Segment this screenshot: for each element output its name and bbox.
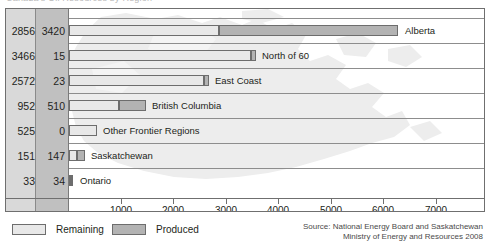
x-tick-7000	[436, 199, 437, 204]
row-divider	[69, 43, 484, 44]
bar-label-ontario: Ontario	[80, 175, 111, 186]
x-axis-line	[69, 198, 484, 199]
bar-segment-remaining	[69, 125, 97, 136]
source-note: Source: National Energy Board and Saskat…	[303, 222, 483, 242]
plot-area: Alberta North of 60 East Coast British C…	[69, 9, 484, 211]
bar-label-british-columbia: British Columbia	[152, 100, 221, 111]
x-tick-6000	[383, 199, 384, 204]
bar-segment-produced	[251, 50, 256, 61]
remaining-value-east-coast: 2572	[12, 74, 35, 88]
value-columns: 2856 3420 3466 15 2572 23 952 510 525 0 …	[6, 9, 69, 211]
x-tick-label-7000: 7000	[425, 205, 447, 212]
bar-segment-remaining	[69, 25, 219, 36]
x-tick-5000	[331, 199, 332, 204]
clipped-title-text: Canada's Oil Resources by Region	[6, 0, 152, 3]
bar-segment-remaining	[69, 75, 204, 86]
x-tick-label-5000: 5000	[320, 205, 342, 212]
bar-segment-produced	[204, 75, 209, 86]
x-tick-label-3000: 3000	[215, 205, 237, 212]
row-divider	[69, 118, 484, 119]
bar-segment-produced	[219, 25, 398, 36]
bar-segment-remaining	[69, 150, 77, 161]
remaining-value-ontario: 33	[23, 174, 35, 188]
remaining-value-other-frontier-regions: 525	[17, 124, 35, 138]
x-tick-label-4000: 4000	[267, 205, 289, 212]
clipped-title-strip: Canada's Oil Resources by Region	[0, 0, 490, 8]
produced-value-other-frontier-regions: 0	[59, 124, 65, 138]
x-tick-label-1000: 1000	[110, 205, 132, 212]
chart-frame: 2856 3420 3466 15 2572 23 952 510 525 0 …	[5, 8, 485, 212]
x-tick-label-2000: 2000	[162, 205, 184, 212]
bar-label-saskatchewan: Saskatchewan	[91, 150, 153, 161]
bar-label-other-frontier-regions: Other Frontier Regions	[103, 125, 200, 136]
produced-swatch-icon	[112, 224, 146, 235]
row-divider	[69, 93, 484, 94]
legend-label-remaining: Remaining	[56, 222, 104, 238]
remaining-value-north-of-60: 3466	[12, 49, 35, 63]
bar-segment-produced	[71, 175, 73, 186]
produced-value-east-coast: 23	[53, 74, 65, 88]
produced-value-british-columbia: 510	[47, 99, 65, 113]
x-tick-4000	[278, 199, 279, 204]
bar-segment-produced	[77, 150, 85, 161]
row-divider	[69, 18, 484, 19]
row-divider	[69, 168, 484, 169]
x-tick-label-6000: 6000	[372, 205, 394, 212]
produced-value-north-of-60: 15	[53, 49, 65, 63]
remaining-swatch-icon	[12, 224, 46, 235]
bar-label-alberta: Alberta	[405, 25, 435, 36]
legend-label-produced: Produced	[156, 222, 199, 238]
produced-value-saskatchewan: 147	[47, 149, 65, 163]
source-line-1: Source: National Energy Board and Saskat…	[303, 222, 483, 232]
bar-label-east-coast: East Coast	[215, 75, 261, 86]
x-tick-2000	[173, 199, 174, 204]
source-line-2: Ministry of Energy and Resources 2008	[303, 232, 483, 242]
x-tick-3000	[226, 199, 227, 204]
remaining-value-saskatchewan: 151	[17, 149, 35, 163]
remaining-value-british-columbia: 952	[17, 99, 35, 113]
row-divider	[69, 143, 484, 144]
x-tick-1000	[121, 199, 122, 204]
bar-segment-produced	[119, 100, 146, 111]
produced-value-ontario: 34	[53, 174, 65, 188]
bar-label-north-of-60: North of 60	[262, 50, 309, 61]
x-axis-line-left	[6, 198, 69, 199]
produced-value-alberta: 3420	[42, 24, 65, 38]
bar-segment-remaining	[69, 50, 251, 61]
remaining-value-alberta: 2856	[12, 24, 35, 38]
row-divider	[69, 68, 484, 69]
bar-segment-remaining	[69, 100, 119, 111]
